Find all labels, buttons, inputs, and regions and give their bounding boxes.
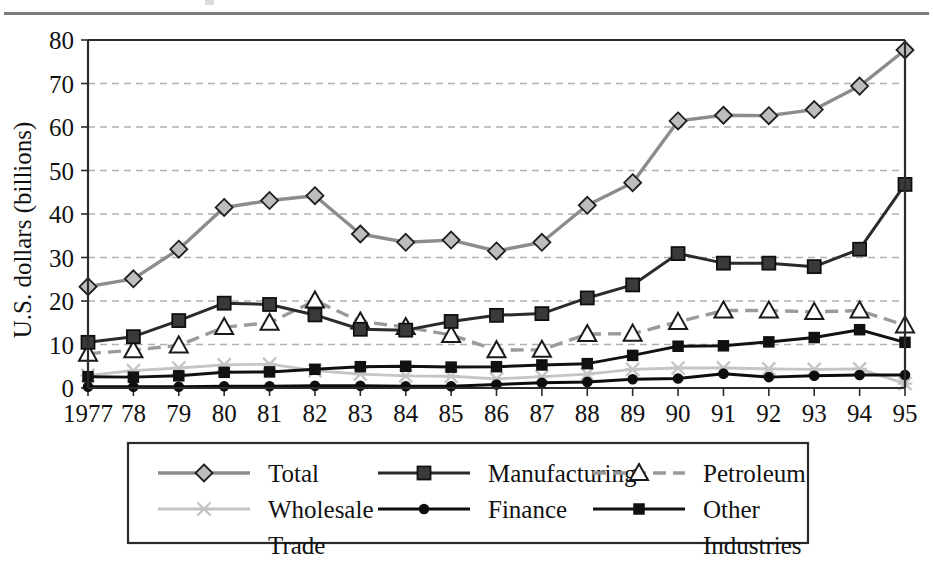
- x-tick-label: 82: [302, 400, 327, 427]
- y-tick-label: 20: [49, 288, 74, 315]
- data-point-marker: [537, 378, 546, 387]
- data-point-marker: [355, 362, 365, 372]
- y-tick-label: 30: [49, 245, 74, 272]
- y-tick-label: 10: [49, 332, 74, 359]
- data-point-marker: [853, 243, 866, 256]
- figure: U.S. dollars (billions) 0102030405060708…: [0, 0, 933, 575]
- x-tick-label: 93: [802, 400, 827, 427]
- y-tick-label: 60: [49, 114, 74, 141]
- data-point-marker: [399, 324, 412, 337]
- y-tick-label: 50: [49, 158, 74, 185]
- data-point-marker: [419, 504, 428, 513]
- data-point-marker: [174, 382, 183, 391]
- data-point-marker: [128, 372, 138, 382]
- data-point-marker: [581, 291, 594, 304]
- x-tick-label: 85: [439, 400, 464, 427]
- data-point-marker: [628, 375, 637, 384]
- data-point-marker: [306, 292, 324, 308]
- x-tick-label: 1977: [63, 400, 113, 427]
- x-tick-label: 92: [756, 400, 781, 427]
- data-point-marker: [125, 270, 142, 287]
- x-tick-label: 86: [484, 400, 509, 427]
- y-tick-label: 0: [62, 375, 75, 402]
- legend-label: Wholesale: [268, 496, 374, 523]
- data-point-marker: [261, 314, 279, 330]
- data-point-marker: [535, 307, 548, 320]
- y-tick-label: 40: [49, 201, 74, 228]
- data-point-marker: [808, 260, 821, 273]
- header-divider: [4, 12, 929, 15]
- data-point-marker: [172, 314, 185, 327]
- gridlines: [88, 84, 905, 345]
- y-axis-title-text: U.S. dollars (billions): [9, 122, 37, 339]
- x-tick-label: 88: [575, 400, 600, 427]
- data-point-marker: [672, 247, 685, 260]
- data-point-marker: [582, 359, 592, 369]
- legend-label: Finance: [488, 496, 567, 523]
- data-point-marker: [537, 360, 547, 370]
- data-point-marker: [129, 382, 138, 391]
- data-point-marker: [443, 232, 460, 249]
- data-point-marker: [626, 278, 639, 291]
- data-point-marker: [628, 350, 638, 360]
- data-point-marker: [806, 101, 823, 118]
- data-point-marker: [308, 308, 321, 321]
- series-manufacturing: [82, 178, 912, 349]
- data-point-marker: [445, 315, 458, 328]
- legend-label: Trade: [268, 532, 325, 559]
- data-point-marker: [625, 363, 640, 376]
- x-tick-label: 94: [847, 400, 873, 427]
- data-point-marker: [127, 330, 140, 343]
- plot-series: [79, 42, 914, 392]
- data-point-marker: [261, 192, 278, 209]
- x-tick-label: 83: [348, 400, 373, 427]
- legend-label: Petroleum: [703, 460, 806, 487]
- data-point-marker: [263, 298, 276, 311]
- data-point-marker: [634, 504, 644, 514]
- data-point-marker: [762, 257, 775, 270]
- data-point-marker: [401, 361, 411, 371]
- data-point-marker: [220, 382, 229, 391]
- data-point-marker: [855, 325, 865, 335]
- series-petroleum: [79, 292, 914, 361]
- data-point-marker: [764, 373, 773, 382]
- data-point-marker: [218, 297, 231, 310]
- y-tick-label: 70: [49, 71, 74, 98]
- x-tick-label: 79: [166, 400, 191, 427]
- data-point-marker: [418, 467, 431, 480]
- data-point-marker: [810, 371, 819, 380]
- y-axis-title: U.S. dollars (billions): [9, 122, 37, 339]
- data-point-marker: [310, 364, 320, 374]
- data-point-marker: [354, 323, 367, 336]
- data-point-marker: [397, 234, 414, 251]
- x-tick-label: 81: [257, 400, 282, 427]
- chart-legend: TotalManufacturingPetroleumWholesaleTrad…: [128, 443, 808, 559]
- legend-label: Industries: [703, 532, 802, 559]
- data-point-marker: [673, 341, 683, 351]
- x-axis-ticks: 1977787980818283848586878889909192939495: [63, 388, 918, 427]
- x-tick-label: 95: [893, 400, 918, 427]
- x-tick-label: 80: [212, 400, 237, 427]
- data-point-marker: [715, 107, 732, 124]
- data-point-marker: [401, 382, 410, 391]
- data-point-marker: [669, 313, 687, 329]
- data-point-marker: [760, 107, 777, 124]
- x-tick-label: 87: [529, 400, 554, 427]
- legend-label: Other: [703, 496, 761, 523]
- line-chart: U.S. dollars (billions) 0102030405060708…: [0, 0, 933, 575]
- data-point-marker: [764, 337, 774, 347]
- data-point-marker: [583, 377, 592, 386]
- data-point-marker: [855, 370, 864, 379]
- y-tick-label: 80: [49, 27, 74, 54]
- data-point-marker: [490, 309, 503, 322]
- data-point-marker: [265, 382, 274, 391]
- data-point-marker: [671, 361, 686, 374]
- x-tick-label: 84: [393, 400, 419, 427]
- x-tick-label: 78: [121, 400, 146, 427]
- data-point-marker: [446, 362, 456, 372]
- data-point-marker: [265, 367, 275, 377]
- data-point-marker: [492, 362, 502, 372]
- data-point-marker: [174, 371, 184, 381]
- data-point-marker: [447, 382, 456, 391]
- legend-label: Total: [268, 460, 319, 487]
